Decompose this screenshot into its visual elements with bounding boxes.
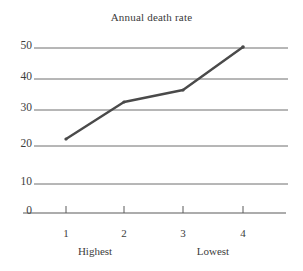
y-tick-label-0: 0 <box>6 205 32 217</box>
gridlines <box>34 48 288 184</box>
data-point-4 <box>241 45 245 49</box>
series-points <box>64 45 244 140</box>
series-line-annual-death-rate <box>66 47 243 139</box>
y-tick-label-50: 50 <box>6 40 32 52</box>
y-tick-label-40: 40 <box>6 71 32 83</box>
group-label-lowest: Lowest <box>178 246 248 257</box>
x-tick-label-4: 4 <box>231 228 255 239</box>
y-tick-label-10: 10 <box>6 176 32 188</box>
data-point-1 <box>64 137 67 140</box>
y-tick-label-20: 20 <box>6 138 32 150</box>
data-point-3 <box>181 88 184 91</box>
y-tick-label-30: 30 <box>6 102 32 114</box>
chart-container: Annual death rate 50 40 30 <box>0 0 303 271</box>
x-axis-ticks <box>66 206 243 213</box>
data-point-2 <box>122 100 125 103</box>
x-tick-label-1: 1 <box>54 228 78 239</box>
x-tick-label-3: 3 <box>171 228 195 239</box>
group-label-highest: Highest <box>60 246 130 257</box>
chart-plot-area <box>0 0 303 271</box>
x-tick-label-2: 2 <box>112 228 136 239</box>
